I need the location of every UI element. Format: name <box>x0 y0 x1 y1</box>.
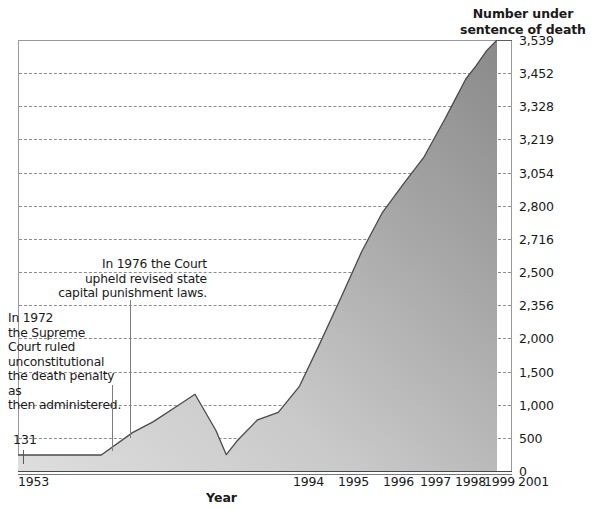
annotation-line: then administered. <box>8 398 126 413</box>
x-tick-label: 1998 <box>455 474 486 489</box>
y-tick-label: 2,500 <box>519 265 554 280</box>
annotation-line: unconstitutional <box>8 355 126 370</box>
annotation-line: the death penalty as <box>8 369 126 398</box>
x-tick-label: 2001 <box>518 474 549 489</box>
y-tick-label: 2,716 <box>519 231 554 246</box>
annotation-1976-leader-line <box>130 300 131 438</box>
x-tick-label: 1953 <box>18 474 49 489</box>
y-tick-label: 3,054 <box>519 165 554 180</box>
annotation-line: Court ruled <box>8 340 126 355</box>
x-axis-label: Year <box>206 490 237 505</box>
y-tick-label: 2,000 <box>519 331 554 346</box>
x-tick-label: 1994 <box>293 474 324 489</box>
annotation-1976: In 1976 the Courtupheld revised statecap… <box>55 257 207 301</box>
y-tick-label: 3,539 <box>519 33 554 48</box>
y-tick-label: 2,356 <box>519 298 554 313</box>
y-tick-label: 1,000 <box>519 397 554 412</box>
y-tick-label: 3,452 <box>519 66 554 81</box>
annotation-line: In 1972 <box>8 311 126 326</box>
x-tick-label: 1997 <box>420 474 451 489</box>
annotation-line: capital punishment laws. <box>55 286 207 301</box>
y-tick-label: 2,800 <box>519 198 554 213</box>
y-tick-label: 500 <box>519 430 542 445</box>
annotation-line: the Supreme <box>8 326 126 341</box>
x-tick-label: 1999 <box>484 474 515 489</box>
y-tick-label: 3,219 <box>519 132 554 147</box>
first-value-tick <box>23 450 24 464</box>
annotation-line: upheld revised state <box>55 272 207 287</box>
annotation-1972: In 1972the SupremeCourt ruledunconstitut… <box>8 311 126 413</box>
y-tick-label: 3,328 <box>519 99 554 114</box>
annotation-line: In 1976 the Court <box>55 257 207 272</box>
annotation-1972-leader-line <box>112 385 113 451</box>
y-tick-label: 1,500 <box>519 364 554 379</box>
x-tick-label: 1996 <box>383 474 414 489</box>
first-value-label: 131 <box>13 432 37 447</box>
x-tick-label: 1995 <box>338 474 369 489</box>
